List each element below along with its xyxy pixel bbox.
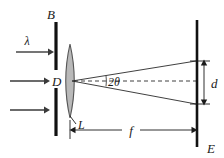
label-spot-size: d: [211, 76, 218, 91]
incoming-beam-top: [16, 49, 54, 56]
label-screen: E: [206, 141, 215, 156]
label-wavelength: λ: [23, 34, 29, 48]
diagram-canvas: B λ D L 2θ d f E: [0, 0, 224, 158]
incoming-beam-middle: [10, 78, 50, 85]
ray-lower: [72, 81, 196, 104]
dimension-d: [190, 60, 210, 106]
arrowhead-icon: [48, 49, 54, 56]
arrowhead-down-icon: [201, 100, 207, 106]
label-barrier: B: [47, 7, 55, 22]
arrowhead-icon: [44, 78, 50, 85]
arrowhead-up-icon: [201, 60, 207, 66]
label-angle: 2θ: [108, 75, 120, 89]
dimension-f: [70, 120, 198, 139]
label-lens: L: [77, 118, 85, 132]
ray-upper: [72, 61, 196, 81]
lens-label-leader: [70, 116, 76, 124]
ray-diagram-figure: B λ D L 2θ d f E: [0, 0, 224, 158]
incoming-beam-bottom: [10, 107, 50, 114]
label-aperture: D: [51, 74, 62, 89]
arrowhead-icon: [44, 107, 50, 114]
